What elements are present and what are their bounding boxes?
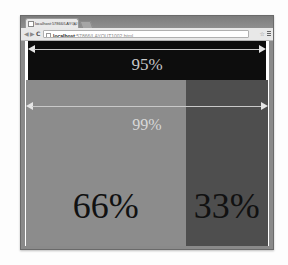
band-95-label: 95% <box>28 56 266 74</box>
forward-arrow-icon[interactable]: ▶ <box>30 30 35 38</box>
menu-hamburger-icon[interactable] <box>267 31 271 36</box>
browser-toolbar: ◀ ▶ C localhost:57866/LAYOUT1002.html ☆ <box>21 28 273 41</box>
column-33-percent: 33% <box>186 80 268 246</box>
band-99-percent: 66% 33% <box>26 80 268 246</box>
tab-title: localhost:57866/LAYOU <box>35 21 77 26</box>
browser-tab[interactable]: localhost:57866/LAYOU × <box>25 18 79 28</box>
column-33-label: 33% <box>186 186 268 226</box>
page-favicon-icon <box>28 21 34 27</box>
address-bar[interactable]: localhost:57866/LAYOUT1002.html <box>43 30 249 38</box>
column-66-percent: 66% <box>26 80 186 246</box>
page-viewport: 95% 66% 33% 99% <box>25 41 269 246</box>
arrow-right-icon <box>259 45 266 53</box>
page-icon <box>46 33 51 38</box>
tab-close-icon[interactable]: × <box>73 19 76 28</box>
browser-window: localhost:57866/LAYOU × ◀ ▶ C localhost:… <box>20 15 274 250</box>
back-arrow-icon[interactable]: ◀ <box>24 30 29 38</box>
title-bar: localhost:57866/LAYOU × <box>21 16 273 28</box>
url-host: localhost <box>53 33 75 38</box>
reload-icon[interactable]: C <box>36 30 40 38</box>
band-95-percent: 95% <box>28 41 266 80</box>
bookmark-star-icon[interactable]: ☆ <box>260 30 265 38</box>
url-path: :57866/LAYOUT1002.html <box>75 33 133 38</box>
column-66-label: 66% <box>26 186 186 226</box>
width-indicator-line <box>34 49 260 50</box>
